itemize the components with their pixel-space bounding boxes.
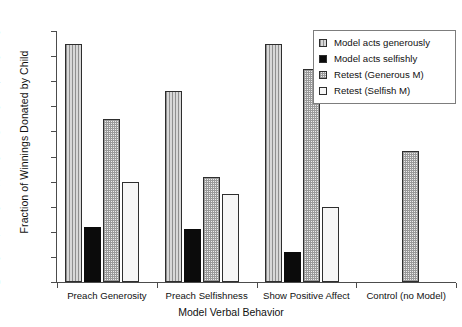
bar <box>203 177 220 282</box>
legend-item: Retest (Generous M) <box>319 67 450 83</box>
legend: Model acts generouslyModel acts selfishl… <box>313 30 456 104</box>
x-tick-mark <box>356 283 357 288</box>
bar <box>65 44 82 282</box>
bar <box>165 91 182 282</box>
bar <box>184 229 201 282</box>
y-tick-mark <box>51 31 56 32</box>
legend-label: Retest (Generous M) <box>334 70 424 80</box>
bar <box>284 252 301 282</box>
y-tick-mark <box>51 207 56 208</box>
x-tick-label: Preach Generosity <box>67 290 146 301</box>
legend-swatch-icon <box>319 71 327 79</box>
x-tick-mark <box>57 283 58 288</box>
legend-swatch-icon <box>319 87 327 95</box>
x-tick-label: Show Positive Affect <box>263 290 350 301</box>
legend-label: Model acts generously <box>334 38 430 48</box>
legend-item: Retest (Selfish M) <box>319 83 450 99</box>
legend-label: Retest (Selfish M) <box>334 86 410 96</box>
y-tick-mark <box>51 282 56 283</box>
y-axis-title: Fraction of Winnings Donated by Child <box>18 22 30 262</box>
x-tick-mark <box>257 283 258 288</box>
legend-swatch-icon <box>319 39 327 47</box>
y-tick-mark <box>51 232 56 233</box>
legend-label: Model acts selfishly <box>334 54 417 64</box>
x-tick-label: Control (no Model) <box>366 290 445 301</box>
x-axis-title: Model Verbal Behavior <box>0 306 462 318</box>
bar <box>103 119 120 282</box>
bar-chart-figure: Fraction of Winnings Donated by Child Mo… <box>0 0 462 327</box>
bar <box>402 151 419 282</box>
y-tick-mark <box>51 81 56 82</box>
legend-item: Model acts generously <box>319 35 450 51</box>
y-tick-mark <box>51 157 56 158</box>
legend-swatch-icon <box>319 55 327 63</box>
y-tick-mark <box>51 182 56 183</box>
y-tick-mark <box>51 131 56 132</box>
bar <box>122 182 139 282</box>
bar <box>222 194 239 282</box>
x-tick-mark <box>157 283 158 288</box>
bar <box>322 207 339 282</box>
x-tick-label: Preach Selfishness <box>166 290 248 301</box>
y-tick-mark <box>51 106 56 107</box>
y-tick-mark <box>51 257 56 258</box>
bar <box>84 227 101 282</box>
x-tick-mark <box>456 283 457 288</box>
legend-item: Model acts selfishly <box>319 51 450 67</box>
y-tick-mark <box>51 56 56 57</box>
bar <box>265 44 282 282</box>
